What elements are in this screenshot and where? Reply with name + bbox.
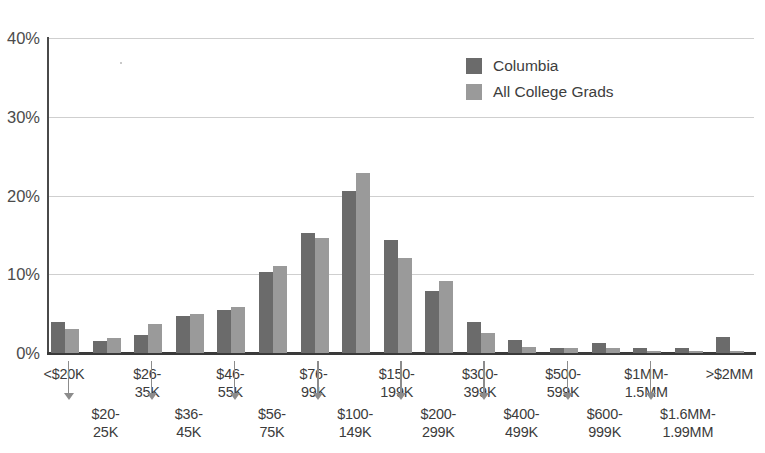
bar-columbia bbox=[633, 348, 647, 353]
bar-group bbox=[134, 38, 164, 353]
legend-item-all-college-grads: All College Grads bbox=[466, 79, 614, 105]
bar-columbia bbox=[301, 233, 315, 353]
bar-all-college-grads bbox=[439, 281, 453, 353]
bars-layer bbox=[49, 38, 756, 353]
bar-group bbox=[675, 38, 705, 353]
bar-all-college-grads bbox=[315, 238, 329, 353]
bar-columbia bbox=[93, 341, 107, 353]
legend-label: All College Grads bbox=[493, 83, 614, 101]
y-axis-tick-label: 30% bbox=[0, 107, 40, 126]
bar-all-college-grads bbox=[481, 333, 495, 353]
bar-all-college-grads bbox=[730, 351, 744, 353]
grouped-bar-chart: 0%10%20%30%40% Columbia All College Grad… bbox=[0, 0, 765, 453]
bar-columbia bbox=[259, 272, 273, 353]
label-pointer-arrow-icon bbox=[63, 361, 75, 401]
bar-group bbox=[384, 38, 414, 353]
bar-all-college-grads bbox=[107, 338, 121, 353]
bar-columbia bbox=[134, 335, 148, 353]
x-axis-tick-label: $1.6MM-1.99MM bbox=[651, 405, 725, 441]
bar-group bbox=[633, 38, 663, 353]
y-axis-tick-label: 40% bbox=[0, 29, 40, 48]
x-axis-tick-label: $600-999K bbox=[568, 405, 642, 441]
label-pointer-arrow-icon bbox=[645, 361, 657, 401]
x-axis-tick-label: $200-299K bbox=[401, 405, 475, 441]
legend-swatch-icon bbox=[466, 84, 482, 100]
bar-columbia bbox=[675, 348, 689, 354]
bar-group bbox=[51, 38, 81, 353]
y-axis-tick-label: 20% bbox=[0, 186, 40, 205]
bar-columbia bbox=[217, 310, 231, 353]
bar-columbia bbox=[508, 340, 522, 353]
bar-columbia bbox=[716, 337, 730, 353]
bar-group bbox=[716, 38, 746, 353]
x-axis-tick-label: $100-149K bbox=[318, 405, 392, 441]
chart-legend: Columbia All College Grads bbox=[466, 53, 614, 105]
bar-all-college-grads bbox=[522, 347, 536, 353]
label-pointer-arrow-icon bbox=[395, 361, 407, 401]
label-pointer-arrow-icon bbox=[229, 361, 241, 401]
label-pointer-arrow-icon bbox=[146, 361, 158, 401]
bar-group bbox=[93, 38, 123, 353]
bar-group bbox=[217, 38, 247, 353]
bar-columbia bbox=[592, 343, 606, 353]
x-axis-tick-label: >$2MM bbox=[692, 365, 765, 383]
bar-all-college-grads bbox=[231, 307, 245, 353]
bar-columbia bbox=[384, 240, 398, 353]
bar-all-college-grads bbox=[564, 348, 578, 353]
bar-all-college-grads bbox=[689, 351, 703, 353]
bar-all-college-grads bbox=[65, 329, 79, 353]
bar-all-college-grads bbox=[273, 266, 287, 353]
bar-group bbox=[342, 38, 372, 353]
label-pointer-arrow-icon bbox=[562, 361, 574, 401]
bar-columbia bbox=[467, 322, 481, 354]
legend-swatch-icon bbox=[466, 58, 482, 74]
x-axis-tick-label: $20-25K bbox=[69, 405, 143, 441]
bar-columbia bbox=[176, 316, 190, 353]
bar-columbia bbox=[342, 191, 356, 353]
bar-group bbox=[259, 38, 289, 353]
bar-all-college-grads bbox=[148, 324, 162, 353]
x-axis-tick-label: $56-75K bbox=[235, 405, 309, 441]
x-axis-tick-label: $400-499K bbox=[484, 405, 558, 441]
bar-group bbox=[176, 38, 206, 353]
y-axis-tick-label: 10% bbox=[0, 265, 40, 284]
bar-columbia bbox=[51, 322, 65, 354]
bar-group bbox=[301, 38, 331, 353]
x-axis-tick-label: $36-45K bbox=[152, 405, 226, 441]
bar-group bbox=[425, 38, 455, 353]
bar-columbia bbox=[550, 348, 564, 354]
bar-all-college-grads bbox=[647, 351, 661, 353]
bar-all-college-grads bbox=[398, 258, 412, 353]
legend-item-columbia: Columbia bbox=[466, 53, 614, 79]
bar-columbia bbox=[425, 291, 439, 353]
bar-all-college-grads bbox=[190, 314, 204, 353]
bar-all-college-grads bbox=[356, 173, 370, 353]
bar-all-college-grads bbox=[606, 348, 620, 353]
legend-label: Columbia bbox=[493, 57, 558, 75]
x-axis-labels: <$20K$20-25K$26-35K$36-45K$46-55K$56-75K… bbox=[0, 355, 765, 453]
label-pointer-arrow-icon bbox=[478, 361, 490, 401]
label-pointer-arrow-icon bbox=[312, 361, 324, 401]
